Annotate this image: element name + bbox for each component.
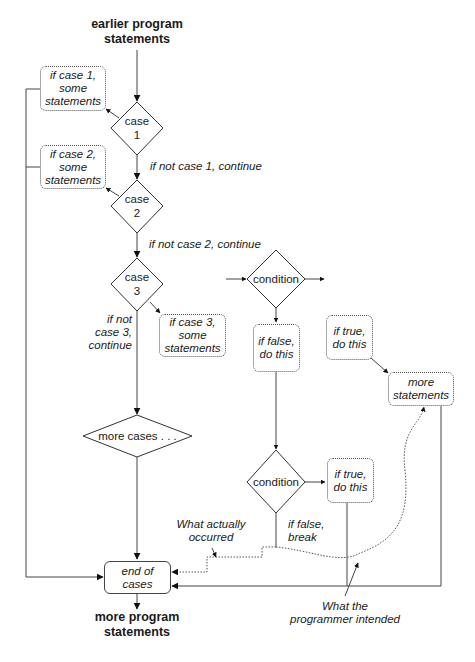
end-arrow: [0, 0, 475, 662]
